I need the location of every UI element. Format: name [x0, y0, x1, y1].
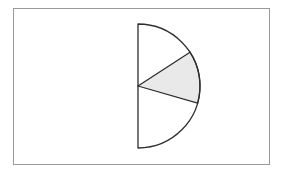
- figure-canvas: [0, 0, 281, 175]
- geometry-diagram: [0, 0, 281, 175]
